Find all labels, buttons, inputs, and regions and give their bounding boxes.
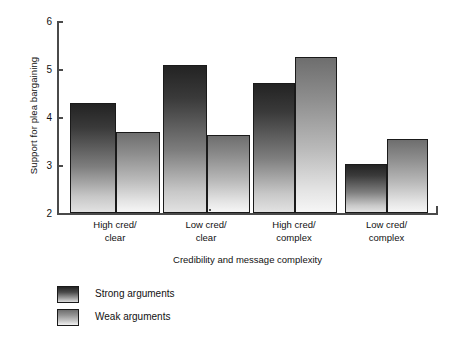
legend-swatch-strong-icon — [57, 286, 79, 303]
x-axis-category-high-cred-clear: High cred/ clear — [70, 219, 160, 244]
bar-strong-low-cred-clear — [163, 65, 207, 213]
bar-chart-figure: Support for plea bargaining 6 5 4 3 2 Hi… — [0, 0, 450, 337]
y-axis-tick-label-6: 6 — [34, 16, 52, 27]
category-label-line1: High cred/ — [70, 219, 160, 232]
bar-strong-high-cred-complex — [253, 83, 295, 213]
x-axis-category-low-cred-clear: Low cred/ clear — [162, 219, 250, 244]
bar-weak-low-cred-complex — [387, 139, 428, 213]
y-axis-tick-label-3: 3 — [34, 160, 52, 171]
category-label-line2: complex — [251, 232, 337, 245]
y-axis-tick-4 — [57, 117, 63, 119]
bar-weak-high-cred-clear — [116, 132, 160, 213]
x-axis-category-high-cred-complex: High cred/ complex — [251, 219, 337, 244]
category-label-line2: clear — [162, 232, 250, 245]
category-label-line1: Low cred/ — [162, 219, 250, 232]
y-axis-tick-6 — [57, 21, 63, 23]
category-label-line2: clear — [70, 232, 160, 245]
bar-weak-high-cred-complex — [295, 57, 337, 213]
x-axis-speck-mark — [209, 209, 211, 211]
x-axis-line — [57, 213, 438, 215]
x-axis-title: Credibility and message complexity — [57, 254, 438, 265]
y-axis-tick-5 — [57, 69, 63, 71]
legend-swatch-weak-icon — [57, 309, 79, 326]
legend-label-strong-arguments: Strong arguments — [95, 288, 175, 299]
bar-strong-low-cred-complex — [345, 164, 387, 213]
bar-strong-high-cred-clear — [70, 103, 116, 213]
legend-label-weak-arguments: Weak arguments — [95, 311, 170, 322]
category-label-line1: High cred/ — [251, 219, 337, 232]
y-axis-tick-label-2: 2 — [34, 208, 52, 219]
bar-weak-low-cred-clear — [207, 135, 250, 213]
y-axis-tick-label-4: 4 — [34, 112, 52, 123]
y-axis-tick-label-5: 5 — [34, 64, 52, 75]
x-axis-category-low-cred-complex: Low cred/ complex — [345, 219, 428, 244]
x-axis-end-tick — [436, 206, 438, 215]
category-label-line2: complex — [345, 232, 428, 245]
y-axis-tick-3 — [57, 165, 63, 167]
category-label-line1: Low cred/ — [345, 219, 428, 232]
